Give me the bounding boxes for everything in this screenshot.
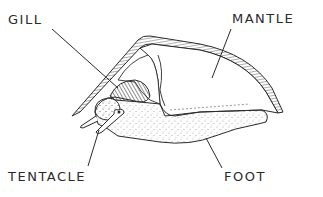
label-foot: FOOT	[224, 170, 266, 183]
label-gill: GILL	[8, 13, 42, 26]
label-tentacle: TENTACLE	[8, 170, 86, 183]
snail-illustration	[0, 0, 323, 197]
label-mantle: MANTLE	[232, 12, 294, 25]
snail-anatomy-diagram: GILL MANTLE TENTACLE FOOT	[0, 0, 323, 197]
tentacle-leader	[88, 130, 99, 166]
gill-leader	[52, 29, 118, 88]
foot-leader	[206, 138, 222, 168]
